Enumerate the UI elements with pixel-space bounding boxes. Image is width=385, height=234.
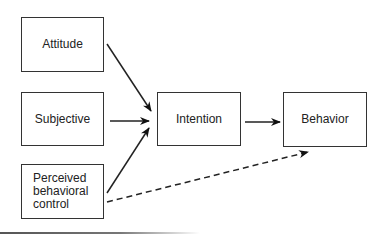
edge-pbc-intention xyxy=(107,128,149,193)
node-label: Behavior xyxy=(301,113,348,126)
edge-pbc-behavior-dashed xyxy=(107,152,308,202)
node-label: Intention xyxy=(176,113,222,126)
node-perceived-behavioral-control: Perceived behavioral control xyxy=(21,164,104,219)
node-subjective: Subjective xyxy=(21,92,104,146)
node-label: Perceived behavioral control xyxy=(33,172,88,211)
edge-attitude-intention xyxy=(107,44,151,111)
node-label: Attitude xyxy=(42,38,83,51)
node-label: Subjective xyxy=(35,113,90,126)
node-behavior: Behavior xyxy=(283,92,367,147)
bottom-divider xyxy=(0,232,200,234)
node-intention: Intention xyxy=(157,92,241,146)
node-attitude: Attitude xyxy=(21,17,104,72)
